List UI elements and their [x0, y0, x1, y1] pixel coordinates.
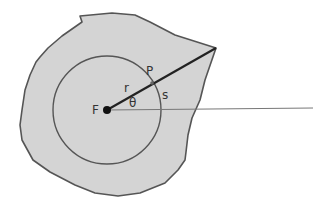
polar-diagram: F P r s θ	[0, 0, 327, 206]
label-focus: F	[92, 103, 99, 117]
label-arc: s	[162, 88, 168, 102]
point-p-marker	[150, 81, 154, 85]
focus-point	[103, 106, 111, 114]
diagram-canvas: F P r s θ	[0, 0, 327, 206]
label-radius: r	[124, 81, 129, 95]
label-angle: θ	[129, 96, 136, 110]
label-point: P	[146, 64, 153, 78]
